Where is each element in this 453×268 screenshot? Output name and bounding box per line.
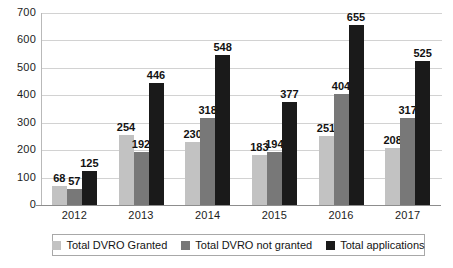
x-axis-tick-label: 2015 [241,208,308,224]
bar-slot: 183 [252,13,267,205]
x-axis-line [36,205,441,206]
y-axis-tick-label: 300 [0,117,36,128]
legend-item[interactable]: Total DVRO not granted [181,239,312,251]
bar [215,55,230,205]
bar-slot: 655 [349,13,364,205]
y-axis-tick-label: 100 [0,172,36,183]
bar [282,102,297,205]
x-axis-tick-label: 2014 [174,208,241,224]
bar-value-label: 125 [72,158,106,169]
bar [415,61,430,205]
x-axis: 201220132014201520162017 [41,208,441,224]
legend-swatch-icon [326,241,335,250]
legend-label: Total applications [340,239,424,251]
y-axis-tick-label: 400 [0,89,36,100]
legend-item[interactable]: Total applications [326,239,424,251]
bar-chart: 0100200300400500600700 68571252541924462… [0,0,453,268]
bar-slot: 548 [215,13,230,205]
bar-value-label: 377 [272,89,306,100]
bar-slot: 254 [119,13,134,205]
bar-slot: 57 [67,13,82,205]
y-axis: 0100200300400500600700 [0,0,36,225]
bar [385,148,400,205]
bar-slot: 125 [82,13,97,205]
plot-wrapper: 0100200300400500600700 68571252541924462… [0,0,453,225]
bar [400,118,415,205]
bar-value-label: 525 [406,48,440,59]
bar-groups: 6857125254192446230318548183194377251404… [41,13,441,205]
bar [334,94,349,205]
bar-group: 183194377 [241,13,308,205]
bar-group: 6857125 [41,13,108,205]
bar-slot: 377 [282,13,297,205]
x-axis-tick-label: 2017 [374,208,441,224]
bar [134,152,149,205]
chart-legend: Total DVRO GrantedTotal DVRO not granted… [52,234,425,256]
bar-slot: 446 [149,13,164,205]
bar [252,155,267,205]
bar [200,118,215,205]
bar-group: 251404655 [308,13,375,205]
bar-slot: 194 [267,13,282,205]
y-axis-tick-label: 200 [0,144,36,155]
bar-slot: 251 [319,13,334,205]
bar-slot: 404 [334,13,349,205]
y-axis-tick-label: 0 [0,199,36,210]
bar-slot: 525 [415,13,430,205]
bar-slot: 192 [134,13,149,205]
legend-swatch-icon [52,241,61,250]
legend-swatch-icon [181,241,190,250]
bar-group: 254192446 [108,13,175,205]
x-axis-tick-label: 2012 [41,208,108,224]
bar-value-label: 655 [339,12,373,23]
bar-group: 208317525 [374,13,441,205]
legend-label: Total DVRO Granted [66,239,167,251]
y-axis-tick-label: 700 [0,7,36,18]
bar-value-label: 446 [139,70,173,81]
y-axis-tick-label: 500 [0,62,36,73]
x-axis-tick-label: 2016 [308,208,375,224]
bar-group: 230318548 [174,13,241,205]
y-axis-tick-label: 600 [0,34,36,45]
bar [185,142,200,205]
bar [52,186,67,205]
bar [82,171,97,205]
bar [349,25,364,205]
bar-value-label: 548 [206,42,240,53]
x-axis-tick-label: 2013 [108,208,175,224]
legend-label: Total DVRO not granted [195,239,312,251]
bar [67,189,82,205]
bar [267,152,282,205]
bar [149,83,164,205]
legend-item[interactable]: Total DVRO Granted [52,239,167,251]
bar-slot: 317 [400,13,415,205]
bar [319,136,334,205]
